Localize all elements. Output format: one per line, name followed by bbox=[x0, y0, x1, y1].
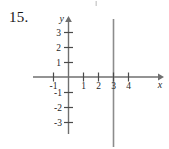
y-tick-label-neg3: -3 bbox=[54, 118, 62, 128]
y-axis-arrow-icon bbox=[65, 16, 72, 22]
y-tick-label-1: 1 bbox=[56, 58, 61, 68]
x-tick-label-3: 3 bbox=[111, 81, 116, 91]
y-axis-label: y bbox=[59, 13, 65, 24]
y-tick-label-2: 2 bbox=[56, 43, 61, 53]
y-tick-label-neg2: -2 bbox=[54, 103, 62, 113]
x-tick-label-1: 1 bbox=[81, 81, 86, 91]
scan-artifact-speck bbox=[96, 1, 97, 6]
x-axis-label: x bbox=[157, 79, 163, 90]
x-tick-label-2: 2 bbox=[96, 81, 101, 91]
figure-container: 15. -1 1 2 3 4 3 2 1 -1 bbox=[0, 0, 169, 149]
y-tick-label-neg1: -1 bbox=[54, 88, 62, 98]
x-tick-label-4: 4 bbox=[126, 81, 131, 91]
y-tick-label-3: 3 bbox=[56, 28, 61, 38]
coordinate-plane-graph: -1 1 2 3 4 3 2 1 -1 -2 -3 y x bbox=[0, 0, 169, 149]
